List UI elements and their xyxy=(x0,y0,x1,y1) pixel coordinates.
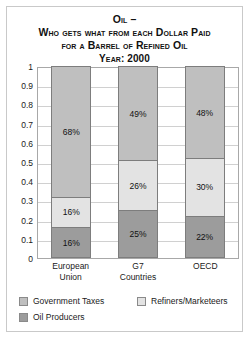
plot-wrapper: 10.90.80.70.60.50.40.30.20.10 68%16%16%4… xyxy=(7,67,244,279)
x-axis-label-line: European xyxy=(39,261,103,272)
chart-title-line-4: Year: 2000 xyxy=(7,52,242,65)
y-tick-label: 0.5 xyxy=(7,159,33,167)
chart-title-line-1: Oil – xyxy=(7,13,242,26)
bar-segment[interactable]: 48% xyxy=(185,66,225,158)
legend-item[interactable]: Oil Producers xyxy=(19,312,85,322)
legend-swatch-icon xyxy=(137,297,146,306)
bar-segment[interactable]: 30% xyxy=(185,158,225,216)
y-tick-label: 1 xyxy=(7,63,33,71)
x-axis-label-line: Countries xyxy=(106,272,170,283)
bar-segment[interactable]: 16% xyxy=(51,197,91,228)
bar-segment-label: 68% xyxy=(63,127,80,137)
bar-segment-label: 30% xyxy=(196,182,213,192)
y-tick-label: 0 xyxy=(7,255,33,263)
bar-segment-label: 26% xyxy=(129,181,146,191)
stacked-bar[interactable]: 49%26%25% xyxy=(118,66,158,258)
legend-swatch-icon xyxy=(19,313,28,322)
x-axis-label-line: G7 xyxy=(106,261,170,272)
y-tick-label: 0.1 xyxy=(7,236,33,244)
x-axis-category-label: G7Countries xyxy=(106,261,170,287)
bar-segment-label: 48% xyxy=(196,108,213,118)
x-axis-category-label: EuropeanUnion xyxy=(39,261,103,287)
bar-segment-label: 25% xyxy=(129,229,146,239)
legend-label: Government Taxes xyxy=(33,296,104,306)
bar-segment-label: 16% xyxy=(63,238,80,248)
legend-label: Oil Producers xyxy=(33,312,85,322)
y-tick-label: 0.3 xyxy=(7,197,33,205)
bar-segment-label: 49% xyxy=(129,109,146,119)
x-axis-category-label: OECD xyxy=(173,261,237,287)
y-tick-label: 0.9 xyxy=(7,82,33,90)
bar-group: 68%16%16%49%26%25%48%30%22% xyxy=(38,68,238,258)
y-tick-label: 0.2 xyxy=(7,217,33,225)
chart-title: Oil – Who gets what from each Dollar Pai… xyxy=(7,13,242,65)
stacked-bar[interactable]: 48%30%22% xyxy=(185,66,225,258)
legend-item[interactable]: Refiners/Marketeers xyxy=(137,296,228,306)
legend-label: Refiners/Marketeers xyxy=(151,296,228,306)
bar-segment[interactable]: 25% xyxy=(118,210,158,258)
legend-item[interactable]: Government Taxes xyxy=(19,296,104,306)
x-axis-label-line: OECD xyxy=(173,261,237,272)
x-axis-label-line: Union xyxy=(39,272,103,283)
chart-figure: Oil – Who gets what from each Dollar Pai… xyxy=(0,0,249,351)
chart-card: Oil – Who gets what from each Dollar Pai… xyxy=(6,6,243,332)
chart-title-line-2: Who gets what from each Dollar Paid xyxy=(7,26,242,39)
bar-segment[interactable]: 26% xyxy=(118,160,158,210)
chart-legend: Government TaxesRefiners/MarketeersOil P… xyxy=(15,296,240,328)
stacked-bar[interactable]: 68%16%16% xyxy=(51,66,91,258)
bar-segment-label: 22% xyxy=(196,232,213,242)
plot-area: 68%16%16%49%26%25%48%30%22% xyxy=(37,67,239,259)
bar-segment[interactable]: 22% xyxy=(185,216,225,258)
y-tick-label: 0.4 xyxy=(7,178,33,186)
legend-swatch-icon xyxy=(19,297,28,306)
bar-segment-label: 16% xyxy=(63,207,80,217)
x-axis-labels: EuropeanUnionG7CountriesOECD xyxy=(37,261,239,287)
chart-title-line-3: for a Barrel of Refined Oil xyxy=(7,39,242,52)
bar-segment[interactable]: 68% xyxy=(51,66,91,197)
y-tick-label: 0.6 xyxy=(7,140,33,148)
bar-segment[interactable]: 16% xyxy=(51,227,91,258)
y-tick-label: 0.8 xyxy=(7,101,33,109)
bar-segment[interactable]: 49% xyxy=(118,66,158,160)
y-tick-label: 0.7 xyxy=(7,121,33,129)
y-axis-ticks: 10.90.80.70.60.50.40.30.20.10 xyxy=(7,67,33,259)
